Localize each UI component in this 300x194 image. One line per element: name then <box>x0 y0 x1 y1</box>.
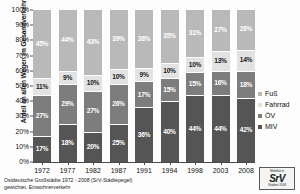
bar-segment-fuß: 44% <box>59 10 77 71</box>
bar-segment-fuß: 39% <box>110 10 128 69</box>
chart-figure: Anteil an allen Wegen im Gesamtverkehr 1… <box>0 0 300 194</box>
srv-logo: Mobilität in SrV Städten 2008 <box>259 167 295 190</box>
bar-series-group: 45%11%27%17%44%9%29%18%43%10%27%20%39%10… <box>33 10 255 162</box>
stacked-bar: 26%14%18%42% <box>237 10 255 162</box>
bar-value-label: 18% <box>61 140 74 147</box>
y-tick-label: 100% <box>3 7 29 14</box>
footer-note: Ostdeutsche Großstädte 1972 - 2008 (SrV-… <box>4 177 254 191</box>
stacked-bar: 27%13%16%44% <box>212 10 230 162</box>
bar-value-label: 18% <box>240 82 253 89</box>
bar-segment-miv: 42% <box>237 98 255 162</box>
legend: FußFahrradÖVMIV <box>258 88 300 132</box>
legend-item-fahrrad[interactable]: Fahrrad <box>258 99 300 110</box>
bar-value-label: 26% <box>112 101 125 108</box>
bar-value-label: 14% <box>240 57 253 64</box>
y-tick-label: 30% <box>3 113 29 120</box>
bar-segment-öv: 17% <box>135 81 153 107</box>
bar-segment-fahrrad: 14% <box>237 50 255 71</box>
bar-segment-fahrrad: 10% <box>161 63 179 78</box>
bar-value-label: 44% <box>61 37 74 44</box>
legend-swatch-icon <box>258 125 262 129</box>
legend-item-fuß[interactable]: Fuß <box>258 88 300 99</box>
x-tick-mark <box>59 162 77 166</box>
bar-value-label: 13% <box>214 58 227 65</box>
bar-value-label: 29% <box>61 101 74 108</box>
stacked-bar: 43%10%27%20% <box>84 10 102 162</box>
bar-value-label: 15% <box>189 81 202 88</box>
legend-item-label: Fahrrad <box>265 101 290 108</box>
legend-item-label: Fuß <box>265 90 277 97</box>
x-tick-mark <box>237 162 255 166</box>
bar-value-label: 11% <box>36 84 48 91</box>
x-tick-label: 2008 <box>237 167 255 174</box>
bar-value-label: 44% <box>214 126 227 133</box>
bar-value-label: 35% <box>163 33 176 40</box>
bar-value-label: 45% <box>36 41 49 48</box>
y-tick-label: 90% <box>3 22 29 29</box>
bar-value-label: 10% <box>189 62 202 69</box>
x-tick-mark <box>33 162 51 166</box>
bar-value-label: 10% <box>87 80 100 87</box>
footer-line-1: Ostdeutsche Großstädte 1972 - 2008 (SrV-… <box>4 177 254 184</box>
bar-segment-fahrrad: 10% <box>110 69 128 84</box>
bar-value-label: 38% <box>138 36 151 43</box>
bar-segment-fahrrad: 10% <box>186 57 204 72</box>
x-tick-label: 1987 <box>110 167 128 174</box>
bar-value-label: 25% <box>112 140 125 147</box>
bar-segment-miv: 20% <box>84 132 102 162</box>
legend-item-öv[interactable]: ÖV <box>258 110 300 121</box>
x-tick-mark <box>161 162 179 166</box>
bar-value-label: 44% <box>189 126 202 133</box>
y-tick-label: 0% <box>3 159 29 166</box>
x-tick-label: 1977 <box>59 167 77 174</box>
x-tick-label: 2003 <box>212 167 230 174</box>
bar-value-label: 31% <box>189 30 202 37</box>
bar-value-label: 40% <box>163 129 176 136</box>
legend-swatch-icon <box>258 103 262 107</box>
bar-value-label: 17% <box>138 92 151 99</box>
x-tick-label: 1972 <box>33 167 51 174</box>
bar-segment-öv: 15% <box>186 72 204 95</box>
stacked-bar: 45%11%27%17% <box>33 10 51 162</box>
bar-segment-miv: 44% <box>186 95 204 162</box>
x-tick-label: 1998 <box>186 167 204 174</box>
bar-value-label: 42% <box>240 127 253 134</box>
footer-line-2: gewichtet. Einwohnerverkehr <box>4 184 254 191</box>
stacked-bar: 44%9%29%18% <box>59 10 77 162</box>
bar-value-label: 39% <box>112 36 125 43</box>
x-tick-label: 1991 <box>135 167 153 174</box>
bar-segment-miv: 18% <box>59 124 77 162</box>
legend-item-label: ÖV <box>265 112 275 119</box>
bar-value-label: 36% <box>138 132 151 139</box>
bar-segment-fuß: 27% <box>212 10 230 51</box>
bar-value-label: 10% <box>112 74 125 81</box>
y-tick-label: 50% <box>3 83 29 90</box>
bar-value-label: 20% <box>87 144 100 151</box>
bar-value-label: 26% <box>240 26 253 33</box>
x-tick-label: 1994 <box>161 167 179 174</box>
x-tick-label: 1982 <box>84 167 102 174</box>
stacked-bar: 31%10%15%44% <box>186 10 204 162</box>
bar-segment-öv: 27% <box>33 95 51 136</box>
bar-segment-fahrrad: 9% <box>135 68 153 82</box>
bar-value-label: 43% <box>87 39 100 46</box>
bar-value-label: 9% <box>139 72 148 79</box>
stacked-bar: 39%10%26%25% <box>110 10 128 162</box>
bar-value-label: 27% <box>87 108 100 115</box>
bar-segment-miv: 17% <box>33 136 51 162</box>
x-tick-mark <box>110 162 128 166</box>
x-tick-mark <box>84 162 102 166</box>
bar-value-label: 16% <box>214 80 227 87</box>
bar-value-label: 17% <box>36 146 49 153</box>
bar-segment-fuß: 26% <box>237 10 255 50</box>
x-tick-mark <box>212 162 230 166</box>
bar-value-label: 9% <box>63 75 72 82</box>
y-tick-label: 70% <box>3 52 29 59</box>
bar-segment-miv: 25% <box>110 124 128 162</box>
bar-value-label: 10% <box>163 68 176 75</box>
stacked-bar: 38%9%17%36% <box>135 10 153 162</box>
legend-item-miv[interactable]: MIV <box>258 121 300 132</box>
bar-segment-öv: 26% <box>110 84 128 124</box>
bar-segment-fuß: 31% <box>186 10 204 57</box>
bar-segment-fuß: 35% <box>161 10 179 63</box>
